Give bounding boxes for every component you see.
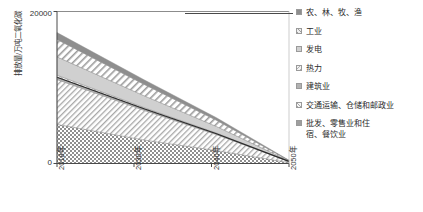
legend-swatch-heat-icon <box>296 65 302 71</box>
legend-label-construction: 建筑业 <box>306 81 330 92</box>
legend-swatch-power-icon <box>296 46 302 52</box>
legend-label-heat: 热力 <box>306 63 322 74</box>
legend-swatch-retail-icon <box>296 120 302 126</box>
legend-item-construction[interactable]: 建筑业 <box>296 81 423 92</box>
legend-label-industry: 工业 <box>306 26 322 37</box>
legend-label-transport: 交通运输、仓储和邮政业 <box>306 100 394 111</box>
x-tick-label-1: 2030年 <box>132 146 143 170</box>
legend-item-industry[interactable]: 工业 <box>296 26 423 37</box>
legend-connector-line <box>185 13 293 14</box>
legend-swatch-construction-icon <box>296 83 302 89</box>
x-tick-label-3: 2050年 <box>287 146 298 170</box>
legend-item-agriculture[interactable]: 农、林、牧、渔 <box>296 7 423 18</box>
legend-item-heat[interactable]: 热力 <box>296 63 423 74</box>
legend-label-power: 发电 <box>306 44 322 55</box>
legend-swatch-transport-icon <box>296 102 302 108</box>
legend-swatch-industry-icon <box>296 28 302 34</box>
chart-legend: 农、林、牧、渔 工业 发电 热力 建筑业 交通运输、仓储和邮政业 批发、零售业和… <box>296 7 423 148</box>
legend-label-agriculture: 农、林、牧、渔 <box>306 7 362 18</box>
legend-label-retail: 批发、零售业和住 宿、餐饮业 <box>306 118 370 140</box>
stacked-areas <box>57 33 289 164</box>
legend-item-transport[interactable]: 交通运输、仓储和邮政业 <box>296 100 423 111</box>
emissions-area-chart: 排放量/万吨二氧化碳 20000 0 <box>0 0 423 212</box>
x-tick-label-2: 2040年 <box>210 146 221 170</box>
x-tick-label-0: 2018年 <box>55 146 66 170</box>
legend-swatch-agriculture-icon <box>296 9 302 15</box>
legend-item-power[interactable]: 发电 <box>296 44 423 55</box>
legend-item-retail[interactable]: 批发、零售业和住 宿、餐饮业 <box>296 118 423 140</box>
